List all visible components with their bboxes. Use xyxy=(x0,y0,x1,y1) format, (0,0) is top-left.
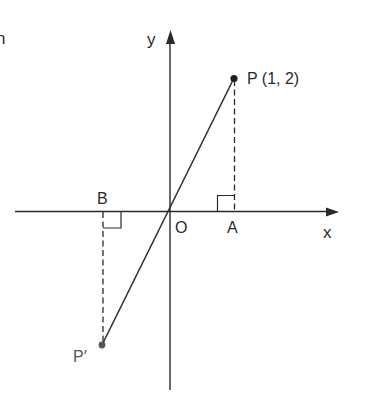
point-b-label: B xyxy=(97,190,108,207)
right-angle-marker-a-icon xyxy=(218,196,235,212)
origin-label: O xyxy=(175,219,187,236)
y-axis-arrowhead-icon xyxy=(166,30,175,44)
x-axis-arrowhead-icon xyxy=(326,208,339,217)
point-p-prime-dot-icon xyxy=(99,342,106,349)
x-axis-label: x xyxy=(323,223,332,242)
point-p-prime-label: P′ xyxy=(73,348,87,365)
point-p-dot-icon xyxy=(230,75,237,82)
point-p-label: P (1, 2) xyxy=(247,70,299,87)
x-axis xyxy=(15,208,339,217)
y-axis xyxy=(166,30,175,390)
y-axis-label: y xyxy=(147,30,156,49)
cropped-text-fragment: n xyxy=(0,29,5,48)
right-angle-marker-b-icon xyxy=(103,212,121,228)
coordinate-diagram: n y P (1, 2) B O A x P′ xyxy=(0,0,366,409)
point-a-label: A xyxy=(227,219,238,236)
